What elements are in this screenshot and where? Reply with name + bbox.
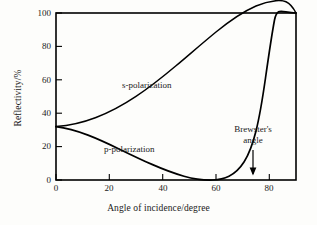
x-axis-title: Angle of incidence/degree — [0, 203, 317, 213]
brewsters-angle-annotation: Brewster's angle — [216, 124, 290, 146]
y-tick-label-40: 40 — [25, 108, 51, 118]
brewsters-angle-line-2: angle — [216, 135, 290, 146]
x-tick-label-40: 40 — [148, 183, 178, 193]
y-tick-label-20: 20 — [25, 141, 51, 151]
curve-label-s-polarization: s-polarization — [122, 80, 171, 90]
brewsters-angle-line-1: Brewster's — [216, 124, 290, 135]
y-tick-label-60: 60 — [25, 75, 51, 85]
y-axis-title: Reflectivity/% — [13, 28, 23, 168]
y-tick-label-80: 80 — [25, 41, 51, 51]
x-tick-label-60: 60 — [201, 183, 231, 193]
x-tick-label-20: 20 — [94, 183, 124, 193]
curve-label-p-polarization: p-polarization — [104, 144, 154, 154]
plot-frame — [56, 13, 296, 180]
x-tick-label-80: 80 — [254, 183, 284, 193]
y-tick-label-100: 100 — [25, 8, 51, 18]
reflectivity-vs-angle-figure: 100 80 60 40 20 0 0 20 40 60 80 Angle of… — [0, 0, 317, 225]
x-tick-label-0: 0 — [41, 183, 71, 193]
